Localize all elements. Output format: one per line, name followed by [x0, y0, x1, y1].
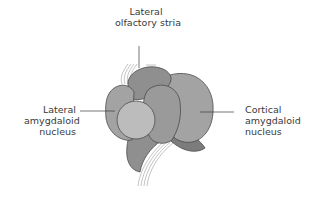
label-lateral-amygdaloid-nucleus: Lateral amygdaloid nucleus — [24, 104, 76, 137]
label-line: Cortical — [245, 104, 305, 115]
label-cortical-amygdaloid-nucleus: Cortical amygdaloid nucleus — [245, 104, 305, 137]
label-line: nucleus — [24, 126, 76, 137]
label-line: Lateral — [118, 6, 174, 17]
label-line: nucleus — [245, 126, 305, 137]
label-line: Lateral — [24, 104, 76, 115]
label-lateral-olfactory-stria: Lateral olfactory stria — [118, 6, 174, 28]
label-line: amygdaloid — [245, 115, 305, 126]
lateral-amygdaloid-nucleus-lobe — [117, 101, 155, 139]
label-line: olfactory stria — [108, 17, 188, 28]
label-line: amygdaloid — [24, 115, 76, 126]
amygdala-illustration — [0, 0, 312, 203]
